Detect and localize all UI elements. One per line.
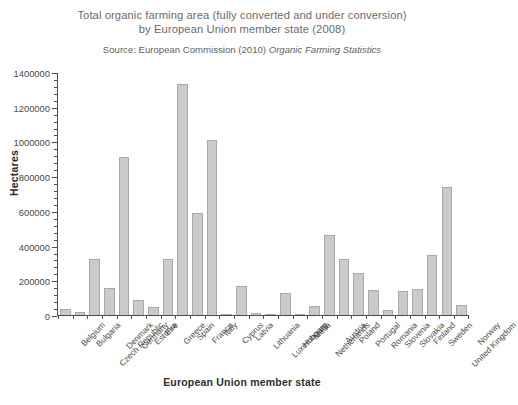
bar[interactable] bbox=[383, 310, 394, 315]
y-axis-minor-tick bbox=[54, 254, 57, 255]
bar-slot bbox=[410, 73, 425, 315]
y-axis-minor-tick bbox=[54, 156, 57, 157]
y-axis-minor-tick bbox=[54, 101, 57, 102]
bar[interactable] bbox=[236, 286, 247, 315]
x-axis-tick bbox=[278, 315, 279, 319]
chart-title-line1: Total organic farming area (fully conver… bbox=[0, 8, 484, 22]
bar-slot bbox=[351, 73, 366, 315]
y-axis-minor-tick bbox=[54, 219, 57, 220]
bar[interactable] bbox=[104, 288, 115, 315]
y-axis-major-tick bbox=[52, 281, 57, 282]
bar[interactable] bbox=[353, 273, 364, 315]
bar-slot bbox=[454, 73, 469, 315]
bar[interactable] bbox=[442, 187, 453, 315]
bar[interactable] bbox=[89, 259, 100, 315]
bar[interactable] bbox=[192, 213, 203, 315]
bar-slot bbox=[87, 73, 102, 315]
chart-source-title: Organic Farming Statistics bbox=[269, 44, 382, 55]
x-axis-title: European Union member state bbox=[0, 376, 484, 388]
y-axis-minor-tick bbox=[54, 267, 57, 268]
bar[interactable] bbox=[265, 314, 276, 315]
y-axis-minor-tick bbox=[54, 240, 57, 241]
x-axis-tick bbox=[395, 315, 396, 319]
bar[interactable] bbox=[412, 289, 423, 315]
bar[interactable] bbox=[295, 314, 306, 315]
bar[interactable] bbox=[119, 157, 130, 315]
x-axis-tick bbox=[58, 315, 59, 319]
bar-slot bbox=[322, 73, 337, 315]
bar[interactable] bbox=[309, 306, 320, 315]
bar-slot bbox=[205, 73, 220, 315]
x-axis-tick bbox=[161, 315, 162, 319]
bar[interactable] bbox=[427, 255, 438, 315]
y-axis-minor-tick bbox=[54, 233, 57, 234]
bar[interactable] bbox=[280, 293, 291, 315]
x-axis-tick bbox=[410, 315, 411, 319]
bar-slot bbox=[249, 73, 264, 315]
y-axis-minor-tick bbox=[54, 226, 57, 227]
y-axis-minor-tick bbox=[54, 115, 57, 116]
y-axis-major-tick bbox=[52, 142, 57, 143]
bar[interactable] bbox=[163, 259, 174, 315]
bar-slot bbox=[175, 73, 190, 315]
bar[interactable] bbox=[398, 291, 409, 315]
bar-slot bbox=[263, 73, 278, 315]
bar[interactable] bbox=[75, 312, 86, 315]
x-axis-tick bbox=[249, 315, 250, 319]
x-axis-tick bbox=[117, 315, 118, 319]
bar[interactable] bbox=[207, 140, 218, 315]
x-axis-tick bbox=[337, 315, 338, 319]
y-axis-minor-tick bbox=[54, 302, 57, 303]
x-axis-tick bbox=[190, 315, 191, 319]
y-axis-minor-tick bbox=[54, 129, 57, 130]
bar-slot bbox=[307, 73, 322, 315]
chart-source-prefix: Source: European Commission (2010) bbox=[103, 44, 269, 55]
bar[interactable] bbox=[60, 309, 71, 315]
y-axis-minor-tick bbox=[54, 149, 57, 150]
bar-slot bbox=[146, 73, 161, 315]
bar-slot bbox=[425, 73, 440, 315]
bar[interactable] bbox=[456, 305, 467, 315]
bar-slot bbox=[293, 73, 308, 315]
bar-slot bbox=[366, 73, 381, 315]
bar[interactable] bbox=[177, 84, 188, 315]
x-axis-tick bbox=[454, 315, 455, 319]
x-axis-tick bbox=[439, 315, 440, 319]
bar[interactable] bbox=[324, 235, 335, 315]
bar[interactable] bbox=[133, 300, 144, 315]
bar-slot bbox=[190, 73, 205, 315]
y-axis-tick-label: 600000 bbox=[19, 206, 50, 217]
x-axis-tick bbox=[73, 315, 74, 319]
y-axis-minor-tick bbox=[54, 274, 57, 275]
bar-slot bbox=[161, 73, 176, 315]
bar-slot bbox=[381, 73, 396, 315]
x-axis-tick bbox=[219, 315, 220, 319]
x-axis-tick bbox=[381, 315, 382, 319]
y-axis-tick-label: 800000 bbox=[19, 172, 50, 183]
x-axis-tick bbox=[425, 315, 426, 319]
x-axis-tick bbox=[351, 315, 352, 319]
y-axis-minor-tick bbox=[54, 288, 57, 289]
bar[interactable] bbox=[251, 313, 262, 315]
y-axis-major-tick bbox=[52, 212, 57, 213]
bar-slot bbox=[234, 73, 249, 315]
y-axis-minor-tick bbox=[54, 122, 57, 123]
bar[interactable] bbox=[368, 290, 379, 315]
bar[interactable] bbox=[221, 314, 232, 315]
y-axis-minor-tick bbox=[54, 135, 57, 136]
bar[interactable] bbox=[339, 259, 350, 315]
x-axis-tick bbox=[205, 315, 206, 319]
bar-slot bbox=[73, 73, 88, 315]
y-axis-minor-tick bbox=[54, 184, 57, 185]
chart-title-line2: by European Union member state (2008) bbox=[0, 22, 484, 36]
y-axis-minor-tick bbox=[54, 295, 57, 296]
bar-slot bbox=[278, 73, 293, 315]
x-axis-tick bbox=[234, 315, 235, 319]
bar-slot bbox=[102, 73, 117, 315]
plot-area: 0200000400000600000800000100000012000001… bbox=[57, 73, 469, 316]
chart-title: Total organic farming area (fully conver… bbox=[0, 8, 484, 36]
bar[interactable] bbox=[148, 307, 159, 315]
x-axis-tick bbox=[263, 315, 264, 319]
x-axis-tick bbox=[468, 315, 469, 319]
y-axis-minor-tick bbox=[54, 309, 57, 310]
